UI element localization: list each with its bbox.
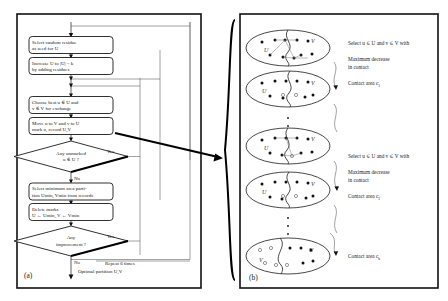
node4-line1: Move u to V and v to U: [32, 121, 80, 126]
annotation-max-decrease-2b: in contact: [348, 177, 369, 183]
decision2-no-label: No: [74, 260, 81, 265]
annotation-select-1: Select u ∈ U and v ∈ V with: [348, 40, 410, 46]
step3-ellipse: [246, 128, 330, 164]
figure-container: Select random residue as seed for U Incr…: [0, 0, 448, 301]
panel-a-label: (a): [24, 271, 33, 280]
annotation-max-decrease-1a: Maximum decrease: [348, 56, 390, 62]
step-3-diagram: U V: [246, 128, 330, 164]
decision2-line1: Any: [67, 235, 76, 240]
node2-line2: by adding residues: [32, 67, 70, 72]
node3-line1: Choose best u ∈ U and: [32, 100, 79, 105]
step4-left-set-label: U: [262, 189, 267, 195]
step-4-diagram: U V: [246, 172, 330, 208]
panel-b-label: (b): [249, 273, 258, 282]
annotation-max-decrease-2a: Maximum decrease: [348, 169, 390, 175]
final-ellipse: [246, 238, 330, 274]
step-2-diagram: U V: [246, 71, 330, 107]
node6-line1: Select minimum area parti-: [32, 186, 87, 191]
decision1-line2: u ∈ U ?: [63, 157, 80, 162]
step2-left-set-label: U: [262, 88, 267, 94]
step1-ellipse: [246, 30, 330, 66]
decision2-yes-label: Yes: [107, 234, 114, 239]
annotation-max-decrease-1b: in contact: [348, 64, 369, 70]
node1-line1: Select random residue: [32, 40, 77, 45]
decision1-yes-label: Yes: [107, 149, 114, 154]
node2-line1: Increase U to |U| = k: [32, 61, 74, 66]
decision2-line2: improvement ?: [56, 242, 87, 247]
step3-left-set-label: U: [264, 145, 269, 151]
step-final-diagram: V U: [246, 238, 330, 274]
node3-line2: v ∈ V for exchange: [32, 106, 72, 111]
step1-left-set-label: U: [264, 47, 269, 53]
annotation-select-2: Select u ∈ U and v ∈ V with: [348, 153, 410, 159]
node7-line1: Delete marks: [32, 207, 59, 212]
decision1-no-label: No: [74, 176, 81, 181]
node1-line2: as seed for U: [32, 46, 59, 51]
step4-ellipse: [246, 172, 330, 208]
step-1-diagram: U V: [246, 30, 330, 66]
decision1-line1: Any unmarked: [56, 151, 86, 156]
